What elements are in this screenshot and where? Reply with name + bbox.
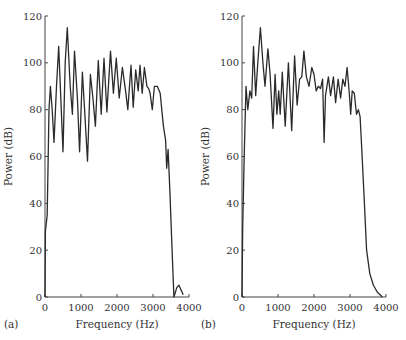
spectrum-line-a bbox=[45, 28, 183, 297]
y-axis-ticks-a: 020406080100120 bbox=[23, 11, 48, 303]
y-tick-label: 40 bbox=[226, 198, 239, 209]
y-tick-label: 100 bbox=[220, 57, 239, 68]
y-tick-label: 20 bbox=[29, 245, 42, 256]
x-axis-title-b: Frequency (Hz) bbox=[272, 318, 355, 330]
y-tick-label: 120 bbox=[23, 11, 42, 22]
y-axis-title-a: Power (dB) bbox=[2, 127, 14, 186]
y-tick-label: 80 bbox=[29, 104, 42, 115]
x-tick-label: 2000 bbox=[301, 302, 326, 313]
x-tick-label: 4000 bbox=[176, 302, 201, 313]
y-tick-label: 0 bbox=[36, 292, 42, 303]
x-tick-label: 1000 bbox=[265, 302, 290, 313]
panel-b: 020406080100120 01000200030004000 Freque… bbox=[199, 11, 399, 331]
x-tick-label: 2000 bbox=[104, 302, 129, 313]
y-tick-label: 80 bbox=[226, 104, 239, 115]
panel-label-b: (b) bbox=[201, 318, 216, 330]
spectrum-figure: 020406080100120 01000200030004000 Freque… bbox=[0, 0, 406, 340]
y-tick-label: 40 bbox=[29, 198, 42, 209]
y-axis-title-b: Power (dB) bbox=[199, 127, 211, 186]
x-tick-label: 3000 bbox=[337, 302, 362, 313]
y-tick-label: 20 bbox=[226, 245, 239, 256]
panel-label-a: (a) bbox=[4, 318, 18, 330]
y-tick-label: 120 bbox=[220, 11, 239, 22]
y-axis-ticks-b: 020406080100120 bbox=[220, 11, 245, 303]
y-tick-label: 60 bbox=[29, 151, 42, 162]
y-tick-label: 60 bbox=[226, 151, 239, 162]
x-tick-label: 1000 bbox=[68, 302, 93, 313]
panel-a: 020406080100120 01000200030004000 Freque… bbox=[2, 11, 202, 331]
y-tick-label: 100 bbox=[23, 57, 42, 68]
y-tick-label: 0 bbox=[233, 292, 239, 303]
x-tick-label: 3000 bbox=[140, 302, 165, 313]
x-axis-title-a: Frequency (Hz) bbox=[75, 318, 158, 330]
x-tick-label: 4000 bbox=[373, 302, 398, 313]
spectrum-line-b bbox=[242, 28, 382, 297]
x-tick-label: 0 bbox=[42, 302, 48, 313]
x-tick-label: 0 bbox=[239, 302, 245, 313]
